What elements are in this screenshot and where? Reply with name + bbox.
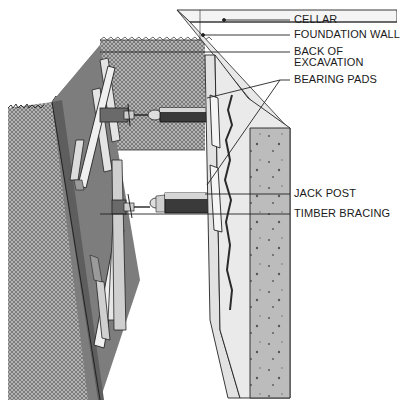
label-back-of-excavation-line2: EXCAVATION: [294, 57, 363, 68]
label-bearing-pads: BEARING PADS: [294, 74, 377, 85]
label-foundation-wall: FOUNDATION WALL: [294, 29, 400, 40]
foundation-wall: [177, 10, 397, 398]
label-jack-post: JACK POST: [294, 188, 356, 199]
label-timber-bracing: TIMBER BRACING: [294, 208, 390, 219]
label-cellar: CELLAR: [294, 14, 337, 25]
